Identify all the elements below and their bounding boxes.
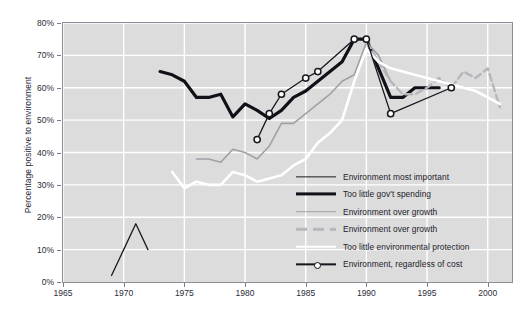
x-tick-label: 1985: [296, 288, 315, 298]
series-marker: [388, 111, 394, 117]
x-tick-label: 1975: [175, 288, 194, 298]
legend-item: Too little environmental protection: [296, 238, 512, 256]
legend-item: Environment, regardless of cost: [296, 256, 512, 274]
chart-figure: Percentage positive to environment 0%10%…: [0, 0, 531, 315]
series-marker: [351, 36, 357, 42]
series-line-1: [160, 39, 439, 118]
chart-legend: Environment most importantToo little gov…: [296, 168, 512, 273]
series-marker: [266, 111, 272, 117]
legend-swatch-thick-black-line: [296, 188, 336, 200]
series-marker: [254, 136, 260, 142]
legend-swatch-white-line: [296, 241, 336, 253]
series-marker: [315, 68, 321, 74]
legend-swatch-black-line-circle-marker: [296, 258, 336, 270]
legend-label: Environment most important: [343, 172, 449, 182]
legend-label: Environment, regardless of cost: [343, 259, 462, 269]
series-marker: [278, 91, 284, 97]
legend-label: Too little environmental protection: [343, 242, 470, 252]
legend-item: Environment most important: [296, 168, 512, 186]
legend-swatch-thin-black-line: [296, 171, 336, 183]
legend-item: Environment over growth: [296, 221, 512, 239]
series-line-3: [366, 42, 499, 107]
legend-label: Too little gov't spending: [343, 189, 431, 199]
series-marker: [448, 85, 454, 91]
x-tick-label: 1980: [236, 288, 255, 298]
legend-item: Environment over growth: [296, 203, 512, 221]
x-tick-label: 1990: [357, 288, 376, 298]
series-marker: [303, 75, 309, 81]
series-marker: [363, 36, 369, 42]
legend-marker-dot: [314, 262, 321, 269]
x-tick-label: 1970: [114, 288, 133, 298]
legend-swatch-gray-dashed-line: [296, 223, 336, 235]
legend-label: Environment over growth: [343, 224, 437, 234]
legend-swatch-gray-line: [296, 206, 336, 218]
x-tick-label: 2000: [478, 288, 497, 298]
x-tick-label: 1995: [418, 288, 437, 298]
legend-label: Environment over growth: [343, 207, 437, 217]
x-tick-label: 1965: [54, 288, 73, 298]
legend-item: Too little gov't spending: [296, 186, 512, 204]
